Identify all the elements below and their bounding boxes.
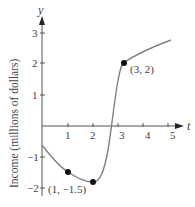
point-annotation: (1, −1.5) — [48, 183, 87, 196]
y-axis-description: Income (millions of dollars) — [8, 58, 21, 188]
x-axis-arrow-icon — [175, 123, 184, 129]
y-tick-label: 2 — [32, 57, 38, 69]
income-curve — [42, 40, 171, 182]
x-tick-label: 2 — [90, 129, 96, 141]
point-3-2 — [121, 60, 127, 66]
y-tick-label: 1 — [32, 89, 38, 101]
point-min-2 — [90, 179, 96, 185]
y-tick-label: −1 — [27, 151, 39, 163]
point-min-1 — [65, 169, 71, 175]
x-axis-name: t — [187, 119, 191, 133]
x-tick-label: 5 — [170, 129, 176, 141]
y-axis-arrow-icon — [39, 16, 45, 25]
y-axis-name: y — [37, 3, 44, 17]
x-tick-label: 4 — [145, 129, 151, 141]
income-chart: y t 1 2 3 4 5 3 2 1 −1 −2 Income (millio… — [0, 0, 195, 207]
y-tick-label: 3 — [32, 27, 38, 39]
point-annotation: (3, 2) — [130, 63, 154, 76]
y-tick-label: −2 — [27, 182, 39, 194]
x-tick-label: 3 — [119, 129, 125, 141]
x-tick-label: 1 — [65, 129, 71, 141]
